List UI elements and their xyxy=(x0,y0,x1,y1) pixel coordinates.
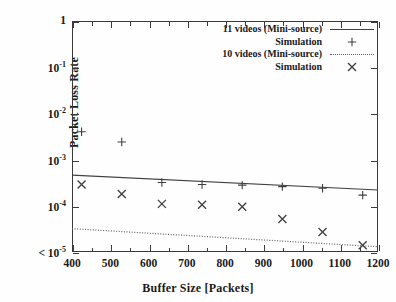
y-tick-mark xyxy=(371,207,377,208)
y-tick-mark xyxy=(73,68,79,69)
x-minor-tick xyxy=(169,248,170,252)
x-tick-mark xyxy=(188,22,189,28)
y-tick-label: 10-3 xyxy=(4,154,66,167)
legend-label: Simulation xyxy=(275,61,328,74)
y-tick-mark xyxy=(73,253,79,254)
x-tick-mark xyxy=(73,22,74,28)
y-tick-mark xyxy=(73,207,79,208)
y-tick-label: 10-2 xyxy=(4,107,66,120)
x-minor-tick xyxy=(92,248,93,252)
x-tick-mark xyxy=(73,245,74,251)
x-axis-title: Buffer Size [Packets] xyxy=(0,281,396,296)
y-tick-mark xyxy=(371,114,377,115)
dotted-line-swatch xyxy=(330,54,374,55)
x-minor-tick xyxy=(130,248,131,252)
x-tick-mark xyxy=(188,245,189,251)
x-tick-mark xyxy=(379,245,380,251)
legend-key-dotted-line xyxy=(328,48,376,61)
legend-entry: 10 videos (Mini-source) xyxy=(190,48,376,61)
legend-entry: Simulation xyxy=(190,36,376,49)
chart-legend: 11 videos (Mini-source)Simulation10 vide… xyxy=(190,23,376,73)
x-tick-mark xyxy=(150,245,151,251)
x-tick-mark xyxy=(264,245,265,251)
legend-entry: Simulation xyxy=(190,61,376,74)
x-minor-tick xyxy=(207,248,208,252)
legend-label: Simulation xyxy=(275,36,328,49)
y-tick-mark xyxy=(73,161,79,162)
legend-key-cross-marker xyxy=(328,61,376,74)
x-tick-mark xyxy=(111,22,112,28)
y-tick-label: 1 xyxy=(4,15,66,27)
legend-key-plus-marker xyxy=(328,36,376,49)
x-tick-mark xyxy=(226,245,227,251)
chart-figure: Packet Loss Rate Buffer Size [Packets] 1… xyxy=(0,0,396,302)
solid-line-swatch xyxy=(330,29,374,30)
x-tick-mark xyxy=(341,245,342,251)
x-minor-tick xyxy=(322,248,323,252)
x-tick-mark xyxy=(111,245,112,251)
y-tick-mark xyxy=(371,161,377,162)
legend-label: 10 videos (Mini-source) xyxy=(222,48,328,61)
y-tick-mark xyxy=(371,253,377,254)
x-minor-tick xyxy=(92,22,93,26)
x-minor-tick xyxy=(245,248,246,252)
x-tick-label: 1200 xyxy=(348,258,396,270)
y-tick-label: 10-1 xyxy=(4,61,66,74)
y-tick-mark xyxy=(73,114,79,115)
legend-entry: 11 videos (Mini-source) xyxy=(190,23,376,36)
legend-label: 11 videos (Mini-source) xyxy=(223,23,328,36)
x-minor-tick xyxy=(283,248,284,252)
x-tick-mark xyxy=(303,245,304,251)
x-minor-tick xyxy=(169,22,170,26)
plus-marker-icon xyxy=(345,36,359,48)
x-minor-tick xyxy=(360,248,361,252)
x-tick-mark xyxy=(150,22,151,28)
legend-key-solid-line xyxy=(328,23,376,36)
x-minor-tick xyxy=(130,22,131,26)
x-tick-mark xyxy=(379,22,380,28)
y-tick-label: 10-4 xyxy=(4,200,66,213)
cross-marker-icon xyxy=(345,61,359,73)
